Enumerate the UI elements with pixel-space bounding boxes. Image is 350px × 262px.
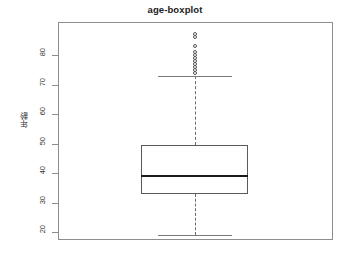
y-axis-tick-label: 20 bbox=[38, 225, 47, 233]
y-axis-tick-label: 70 bbox=[38, 78, 47, 86]
y-axis-tick-label: 80 bbox=[38, 48, 47, 56]
page-title: age-boxplot bbox=[0, 4, 350, 15]
median-line bbox=[141, 175, 248, 178]
outlier-point bbox=[193, 32, 197, 36]
upper-whisker-line bbox=[195, 76, 196, 145]
y-axis-label: 年齢 bbox=[20, 112, 34, 128]
outlier-point bbox=[193, 50, 197, 54]
outlier-point bbox=[193, 44, 197, 48]
lower-whisker-cap bbox=[158, 235, 232, 236]
upper-whisker-cap bbox=[158, 76, 232, 77]
boxplot-canvas: age-boxplot 年齢 80706050403020 bbox=[0, 0, 350, 262]
y-axis-tick-label: 40 bbox=[38, 166, 47, 174]
y-axis-tick-label: 60 bbox=[38, 107, 47, 115]
lower-whisker-line bbox=[195, 194, 196, 235]
box-iqr bbox=[141, 145, 248, 194]
y-axis-tick-label: 30 bbox=[38, 196, 47, 204]
y-axis-tick-label: 50 bbox=[38, 137, 47, 145]
